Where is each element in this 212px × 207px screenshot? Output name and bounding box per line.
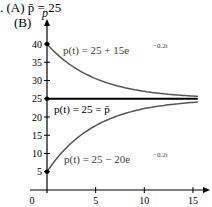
svg-text:5: 5 bbox=[93, 195, 98, 206]
svg-text:−0.2t: −0.2t bbox=[153, 42, 168, 50]
part-b-label: (B) bbox=[14, 15, 31, 30]
svg-text:15: 15 bbox=[32, 130, 42, 141]
svg-text:20: 20 bbox=[32, 112, 42, 123]
svg-text:p(t) = 25 − 20e: p(t) = 25 − 20e bbox=[64, 153, 130, 166]
svg-text:40: 40 bbox=[32, 39, 42, 50]
svg-text:35: 35 bbox=[32, 57, 42, 68]
svg-text:25: 25 bbox=[32, 93, 42, 104]
plot-area: . (A) p̄ = 25(B)p510152025303540051015p(… bbox=[0, 0, 212, 207]
svg-text:p(t) = 25 = p̄: p(t) = 25 = p̄ bbox=[54, 103, 110, 116]
svg-text:5: 5 bbox=[37, 166, 42, 177]
svg-text:10: 10 bbox=[32, 148, 42, 159]
svg-text:−0.2t: −0.2t bbox=[153, 151, 168, 159]
svg-text:30: 30 bbox=[32, 75, 42, 86]
svg-text:p: p bbox=[41, 6, 48, 20]
svg-text:10: 10 bbox=[139, 195, 149, 206]
svg-text:0: 0 bbox=[30, 195, 35, 206]
part-a-label: . (A) p̄ = 25 bbox=[0, 0, 61, 15]
svg-text:15: 15 bbox=[188, 195, 198, 206]
svg-text:p(t) = 25 + 15e: p(t) = 25 + 15e bbox=[63, 44, 129, 57]
